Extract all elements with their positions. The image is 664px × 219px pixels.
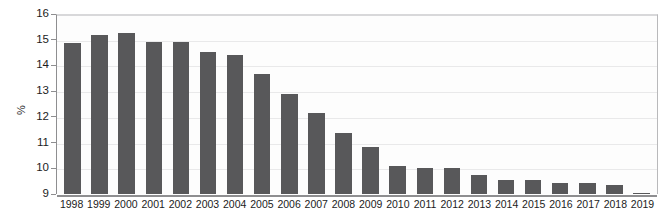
y-axis-tick-label: 13: [36, 83, 49, 98]
bar-slot: [547, 15, 574, 194]
bar[interactable]: [64, 43, 81, 194]
bar-slot: [303, 15, 330, 194]
y-axis-tick-label: 12: [36, 109, 49, 124]
bar-slot: [520, 15, 547, 194]
bar[interactable]: [173, 42, 190, 194]
bars-layer: [57, 15, 657, 194]
bar[interactable]: [525, 180, 542, 194]
y-axis-tick-label: 11: [37, 135, 49, 150]
bar-slot: [222, 15, 249, 194]
x-axis: 1998199920002001200220032004200520062007…: [56, 196, 658, 216]
y-axis: 910111213141516: [30, 14, 56, 194]
x-axis-tick-label: 1998: [58, 196, 85, 216]
bar-slot: [113, 15, 140, 194]
bar-slot: [86, 15, 113, 194]
x-axis-tick-label: 2003: [194, 196, 221, 216]
x-axis-tick-label: 2018: [602, 196, 629, 216]
x-axis-tick-label: 2010: [384, 196, 411, 216]
x-axis-tick-label: 2016: [547, 196, 574, 216]
bar-slot: [167, 15, 194, 194]
x-axis-tick-label: 1999: [85, 196, 112, 216]
bar-chart: % 910111213141516 1998199920002001200220…: [0, 0, 664, 219]
bar[interactable]: [552, 183, 569, 195]
x-axis-tick-label: 2019: [629, 196, 656, 216]
bar-slot: [140, 15, 167, 194]
bar-slot: [276, 15, 303, 194]
x-axis-tick-label: 2013: [466, 196, 493, 216]
x-axis-tick-label: 2002: [167, 196, 194, 216]
bar[interactable]: [579, 183, 596, 195]
bar[interactable]: [254, 74, 271, 194]
bar[interactable]: [633, 193, 650, 194]
bar[interactable]: [200, 52, 217, 194]
bar-slot: [465, 15, 492, 194]
bar-slot: [574, 15, 601, 194]
x-axis-tick-label: 2009: [357, 196, 384, 216]
x-axis-tick-label: 2012: [439, 196, 466, 216]
bar-slot: [384, 15, 411, 194]
y-axis-title-label: %: [15, 105, 27, 115]
x-axis-tick-label: 2006: [276, 196, 303, 216]
x-axis-tick-label: 2017: [575, 196, 602, 216]
bar-slot: [249, 15, 276, 194]
x-axis-tick-label: 2001: [140, 196, 167, 216]
x-axis-tick-label: 2000: [112, 196, 139, 216]
y-axis-tick-label: 14: [36, 57, 49, 72]
bar[interactable]: [308, 113, 325, 194]
bar[interactable]: [498, 180, 515, 194]
x-axis-tick-label: 2007: [303, 196, 330, 216]
x-axis-tick-label: 2005: [248, 196, 275, 216]
bar-slot: [493, 15, 520, 194]
bar-slot: [411, 15, 438, 194]
x-axis-tick-label: 2014: [493, 196, 520, 216]
bar[interactable]: [444, 168, 461, 194]
bar[interactable]: [91, 35, 108, 194]
bar-slot: [601, 15, 628, 194]
bar[interactable]: [281, 94, 298, 194]
bar[interactable]: [227, 55, 244, 194]
bar[interactable]: [606, 185, 623, 194]
bar[interactable]: [389, 166, 406, 194]
y-axis-tick-label: 10: [36, 160, 49, 175]
bar-slot: [628, 15, 655, 194]
bar-slot: [438, 15, 465, 194]
bar[interactable]: [146, 42, 163, 194]
x-axis-tick-label: 2008: [330, 196, 357, 216]
bar[interactable]: [362, 147, 379, 194]
y-axis-title: %: [10, 0, 32, 219]
bar[interactable]: [118, 33, 135, 194]
plot-area: [56, 14, 658, 194]
bar-slot: [194, 15, 221, 194]
bar-slot: [330, 15, 357, 194]
bar[interactable]: [471, 175, 488, 194]
bar-slot: [59, 15, 86, 194]
x-axis-tick-label: 2015: [520, 196, 547, 216]
bar[interactable]: [335, 133, 352, 194]
x-axis-tick-label: 2004: [221, 196, 248, 216]
x-axis-tick-label: 2011: [411, 196, 438, 216]
bar[interactable]: [417, 168, 434, 194]
y-axis-tick-label: 9: [43, 186, 49, 201]
y-axis-tick-label: 16: [36, 6, 49, 21]
y-axis-tick-label: 15: [36, 32, 49, 47]
bar-slot: [357, 15, 384, 194]
